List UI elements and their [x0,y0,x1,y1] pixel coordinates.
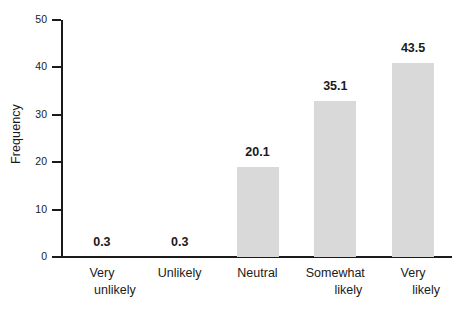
y-axis-tick-label: 20 [13,156,47,166]
category-label-line1: Neutral [237,266,277,280]
bar-chart: Frequency 01020304050 0.30.320.135.143.5… [0,0,456,310]
y-axis-tick [52,256,61,258]
y-axis-tick [52,209,61,211]
bar-value-label: 0.3 [140,236,220,249]
bar-value-label: 0.3 [62,236,142,249]
category-label-line1: Unlikely [158,266,202,280]
bars-group [63,20,452,257]
category-label-line2: likely [361,282,456,299]
category-label-line1: Very [401,266,426,280]
y-axis-tick-label: 50 [13,14,47,24]
y-axis-tick [52,114,61,116]
bar-value-label: 35.1 [295,80,375,93]
y-axis-tick-label: 30 [13,109,47,119]
bar-value-label: 43.5 [373,42,453,55]
category-label-line1: Somewhat [306,266,365,280]
y-axis-tick [52,19,61,21]
x-axis-category-label: Verylikely [361,265,456,299]
y-axis-tick-label: 0 [13,251,47,261]
bar [314,101,356,257]
bar [392,63,434,257]
bar-value-label: 20.1 [218,146,298,159]
category-label-line2: unlikely [50,282,154,299]
y-axis-tick [52,161,61,163]
y-axis-title: Frequency [9,79,23,189]
y-axis-tick-label: 40 [13,61,47,71]
category-label-line1: Very [89,266,114,280]
y-axis-tick [52,66,61,68]
bar [237,167,279,257]
y-axis-tick-label: 10 [13,204,47,214]
